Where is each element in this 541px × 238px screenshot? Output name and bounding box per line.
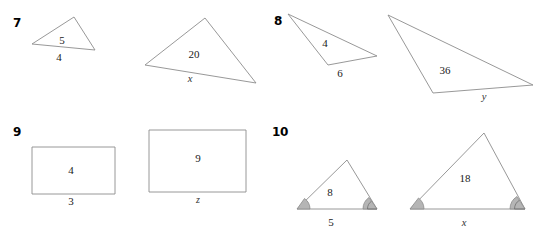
p9-small-interior-label: 4 (68, 165, 74, 176)
p10-large-base-label: x (462, 218, 467, 229)
problem-number-9: 9 (13, 126, 21, 138)
p8-small-base-label: 6 (337, 68, 343, 79)
p8-large-triangle (388, 15, 533, 93)
p10-large-right-angle-inner-arc-icon (515, 200, 526, 209)
problem-number-8: 8 (274, 15, 282, 27)
p7-large-interior-label: 20 (189, 49, 200, 60)
p7-small-base-label: 4 (56, 52, 62, 63)
p8-small-interior-label: 4 (322, 38, 328, 49)
p7-large-triangle (145, 18, 256, 83)
p9-large-interior-label: 9 (195, 153, 201, 164)
p10-large-right-angle-icon (510, 197, 525, 210)
p10-small-right-angle-inner-arc-icon (367, 201, 377, 209)
p9-small-base-label: 3 (68, 196, 74, 207)
p10-small-right-angle-icon (363, 198, 377, 210)
p10-large-interior-label: 18 (460, 173, 471, 184)
problem-number-7: 7 (13, 17, 21, 29)
p10-small-triangle (297, 160, 377, 209)
p8-small-triangle (288, 14, 377, 65)
worksheet-page: 7 8 9 10 (0, 0, 541, 238)
p8-large-base-label: y (482, 92, 487, 103)
p10-small-base-label: 5 (328, 217, 334, 228)
p10-small-left-angle-icon (297, 199, 310, 210)
p9-large-base-label: z (196, 195, 200, 205)
p7-large-base-label: x (188, 74, 193, 85)
problem-number-10: 10 (272, 126, 288, 138)
figures-canvas (0, 0, 541, 238)
p10-small-interior-label: 8 (327, 187, 333, 198)
p7-small-interior-label: 5 (59, 35, 65, 46)
p8-large-interior-label: 36 (440, 65, 451, 76)
p10-large-left-angle-icon (410, 198, 424, 209)
p10-angle-marks (297, 197, 525, 210)
